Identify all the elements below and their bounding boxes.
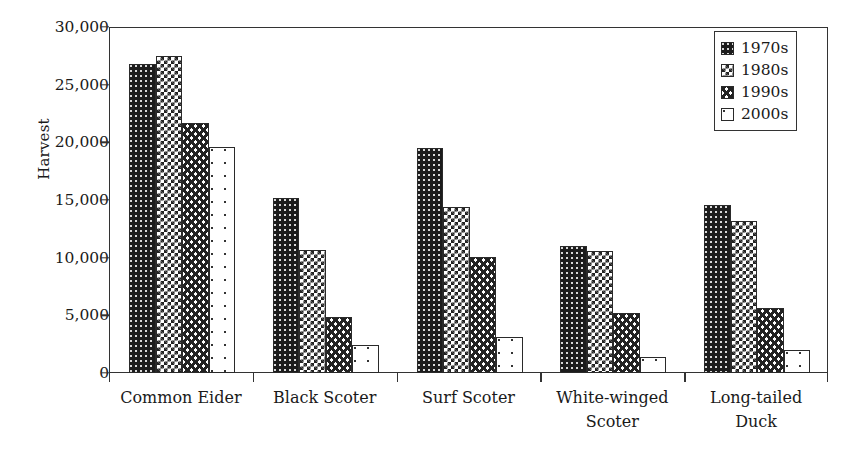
y-tick-label: 5,000 [23,306,109,324]
bar-2000s-4 [640,357,667,373]
legend-label: 1970s [741,39,788,57]
bar-1990s-5 [757,308,784,373]
legend-label: 2000s [741,105,788,123]
x-axis-category-label: Long-tailed Duck [684,386,828,434]
legend-item-2000s: 2000s [721,103,788,125]
bar-1990s-2 [326,317,353,374]
y-axis-ticks: 05,00010,00015,00020,00025,00030,000 [0,0,109,459]
bar-1980s-5 [731,221,758,373]
x-axis-category-label: Common Eider [109,386,253,410]
harvest-bar-chart: Harvest 05,00010,00015,00020,00025,00030… [0,0,841,459]
bar-1970s-1 [129,64,156,373]
legend-label: 1990s [741,83,788,101]
legend-item-1980s: 1980s [721,59,788,81]
legend: 1970s1980s1990s2000s [714,31,797,131]
y-tick-label: 30,000 [23,18,109,36]
bar-group [253,27,397,373]
x-tick-mark [827,373,828,382]
bar-2000s-3 [496,337,523,373]
x-axis-ticks [109,373,828,385]
bar-2000s-5 [784,350,811,373]
y-tick-mark [101,257,109,258]
y-tick-mark [101,199,109,200]
y-tick-mark [101,315,109,316]
bar-1970s-4 [560,246,587,373]
x-tick-mark [397,373,398,382]
bar-2000s-1 [209,147,236,373]
x-tick-mark [253,373,254,382]
x-tick-mark [540,373,541,382]
y-tick-mark [101,142,109,143]
y-tick-label: 15,000 [23,191,109,209]
x-axis-category-label: Surf Scoter [397,386,541,410]
legend-swatch-icon [721,108,734,121]
bar-1970s-5 [704,205,731,373]
bar-1990s-4 [613,313,640,373]
legend-label: 1980s [741,61,788,79]
bar-group [109,27,253,373]
x-tick-mark [109,373,110,382]
bar-group [540,27,684,373]
bar-1970s-2 [273,198,300,373]
y-tick-mark [101,372,109,373]
bar-1980s-3 [443,207,470,373]
bar-1980s-4 [587,251,614,373]
bar-2000s-2 [352,345,379,373]
y-tick-label: 0 [23,364,109,382]
bar-1980s-2 [299,250,326,373]
legend-item-1970s: 1970s [721,37,788,59]
y-tick-mark [101,84,109,85]
y-tick-label: 20,000 [23,133,109,151]
x-axis-category-label: White-winged Scoter [540,386,684,434]
bar-1980s-1 [156,56,183,373]
x-axis-labels: Common EiderBlack ScoterSurf ScoterWhite… [109,386,828,456]
legend-item-1990s: 1990s [721,81,788,103]
y-tick-label: 10,000 [23,249,109,267]
legend-swatch-icon [721,42,734,55]
legend-swatch-icon [721,86,734,99]
x-axis-category-label: Black Scoter [253,386,397,410]
y-tick-label: 25,000 [23,76,109,94]
bar-group [397,27,541,373]
bar-1970s-3 [417,148,444,373]
x-tick-mark [684,373,685,382]
bar-1990s-1 [182,123,209,373]
bar-1990s-3 [470,257,497,373]
legend-swatch-icon [721,64,734,77]
y-tick-mark [101,26,109,27]
